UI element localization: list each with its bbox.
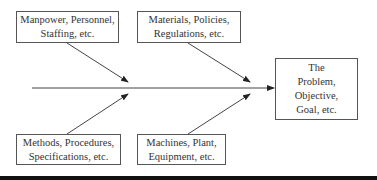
bone-arrow-manpower bbox=[67, 43, 128, 82]
bone-arrow-methods bbox=[67, 94, 128, 134]
cause-label-materials: Materials, Policies, Regulations, etc. bbox=[149, 13, 230, 41]
fishbone-diagram: Manpower, Personnel, Staffing, etc. Mate… bbox=[0, 0, 377, 180]
bone-arrow-materials bbox=[188, 43, 250, 82]
cause-label-machines: Machines, Plant, Equipment, etc. bbox=[146, 136, 216, 164]
bottom-rule-divider bbox=[0, 176, 377, 180]
cause-box-methods: Methods, Procedures, Specifications, etc… bbox=[16, 134, 121, 165]
effect-box: The Problem, Objective, Goal, etc. bbox=[275, 58, 358, 120]
bone-arrow-machines bbox=[188, 94, 250, 134]
cause-label-manpower: Manpower, Personnel, Staffing, etc. bbox=[20, 13, 114, 41]
cause-label-methods: Methods, Procedures, Specifications, etc… bbox=[23, 136, 114, 164]
effect-label: The Problem, Objective, Goal, etc. bbox=[295, 61, 338, 117]
cause-box-materials: Materials, Policies, Regulations, etc. bbox=[137, 11, 241, 43]
cause-box-machines: Machines, Plant, Equipment, etc. bbox=[137, 134, 226, 165]
cause-box-manpower: Manpower, Personnel, Staffing, etc. bbox=[16, 11, 119, 43]
